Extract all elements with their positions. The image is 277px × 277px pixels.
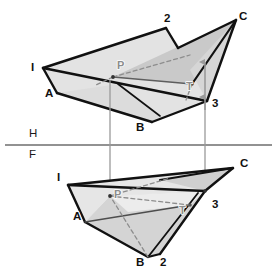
top-label-A: A <box>45 87 53 99</box>
ground-line-label-h: H <box>29 127 37 139</box>
top-label-T: T <box>186 80 193 92</box>
bottom-front-view <box>68 168 233 257</box>
top-label-C: C <box>239 10 247 22</box>
descriptive-geometry-figure: I A B 2 C 3 P T H F I A B 2 C 3 P T <box>0 0 277 277</box>
top-label-2: 2 <box>164 12 170 24</box>
bottom-label-C: C <box>240 157 248 169</box>
bottom-label-I: I <box>57 171 60 183</box>
bottom-label-A: A <box>73 210 81 222</box>
top-label-P: P <box>117 59 124 71</box>
bottom-point-3-marker <box>203 189 207 193</box>
top-label-I: I <box>31 61 34 73</box>
bottom-label-3: 3 <box>212 198 218 210</box>
bottom-label-2: 2 <box>160 256 166 268</box>
top-label-3: 3 <box>212 97 218 109</box>
bottom-label-T: T <box>179 204 186 216</box>
top-label-B: B <box>136 121 144 133</box>
bottom-point-T-marker <box>188 203 192 207</box>
top-pictorial-view <box>43 20 236 122</box>
bottom-label-B: B <box>136 256 144 268</box>
bottom-label-P: P <box>114 188 121 200</box>
ground-line-label-f: F <box>29 148 36 160</box>
bottom-point-P-marker <box>108 194 112 198</box>
geometry-canvas: I A B 2 C 3 P T H F I A B 2 C 3 P T <box>0 0 277 277</box>
top-point-P-marker <box>111 75 115 79</box>
